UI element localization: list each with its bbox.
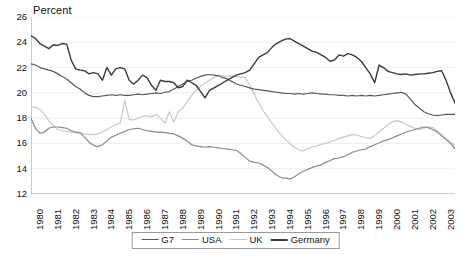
y-tick-label: 14 bbox=[3, 164, 27, 174]
y-tick-label: 20 bbox=[3, 88, 27, 98]
series-line-usa bbox=[31, 118, 455, 179]
x-tick-label: 1984 bbox=[106, 209, 116, 230]
x-tick-label: 1980 bbox=[35, 209, 45, 230]
x-tick-label: 1990 bbox=[214, 209, 224, 230]
x-tick-label: 1981 bbox=[53, 209, 63, 230]
x-tick-label: 2001 bbox=[410, 209, 420, 230]
x-tick-label: 1996 bbox=[321, 209, 331, 230]
line-chart: Percent 1214161820222426 198019811982198… bbox=[0, 0, 471, 260]
y-axis-title: Percent bbox=[33, 4, 72, 16]
x-tick-label: 1989 bbox=[196, 209, 206, 230]
x-tick-label: 1987 bbox=[160, 209, 170, 230]
x-tick-label: 1993 bbox=[267, 209, 277, 230]
y-tick-label: 12 bbox=[3, 189, 27, 199]
x-tick-label: 1982 bbox=[71, 209, 81, 230]
x-tick-label: 1986 bbox=[142, 209, 152, 230]
legend-swatch-g7 bbox=[141, 239, 158, 240]
plot-svg bbox=[31, 17, 455, 194]
x-tick-label: 1994 bbox=[285, 209, 295, 230]
legend-label: Germany bbox=[291, 235, 330, 245]
x-tick-label: 2002 bbox=[428, 209, 438, 230]
legend-label: UK bbox=[249, 235, 262, 245]
y-tick-label: 22 bbox=[3, 63, 27, 73]
x-tick-label: 1983 bbox=[89, 209, 99, 230]
legend-label: USA bbox=[202, 235, 222, 245]
x-tick-label: 1985 bbox=[124, 209, 134, 230]
series-line-uk bbox=[31, 75, 455, 151]
x-tick-label: 1995 bbox=[303, 209, 313, 230]
x-tick-label: 1991 bbox=[231, 209, 241, 230]
legend-label: G7 bbox=[161, 235, 174, 245]
x-tick-label: 1999 bbox=[374, 209, 384, 230]
plot-area bbox=[31, 17, 455, 194]
x-tick-label: 1997 bbox=[338, 209, 348, 230]
series-line-g7 bbox=[31, 64, 455, 116]
legend-swatch-uk bbox=[229, 239, 246, 240]
legend-item-germany[interactable]: Germany bbox=[271, 235, 330, 245]
legend-swatch-germany bbox=[271, 239, 288, 241]
x-tick-label: 1988 bbox=[178, 209, 188, 230]
legend-item-g7[interactable]: G7 bbox=[141, 235, 174, 245]
legend-item-uk[interactable]: UK bbox=[229, 235, 262, 245]
chart-legend: G7USAUKGermany bbox=[131, 232, 340, 249]
y-tick-label: 24 bbox=[3, 37, 27, 47]
x-tick-label: 2003 bbox=[446, 209, 456, 230]
x-tick-label: 1998 bbox=[356, 209, 366, 230]
x-axis-tick-labels: 1980198119821983198419851986198719881989… bbox=[31, 196, 455, 236]
x-tick-label: 2000 bbox=[392, 209, 402, 230]
x-tick-label: 1992 bbox=[249, 209, 259, 230]
y-axis-tick-labels: 1214161820222426 bbox=[0, 0, 27, 260]
legend-swatch-usa bbox=[182, 239, 199, 240]
y-tick-label: 18 bbox=[3, 113, 27, 123]
y-tick-label: 16 bbox=[3, 138, 27, 148]
y-tick-label: 26 bbox=[3, 12, 27, 22]
legend-item-usa[interactable]: USA bbox=[182, 235, 222, 245]
